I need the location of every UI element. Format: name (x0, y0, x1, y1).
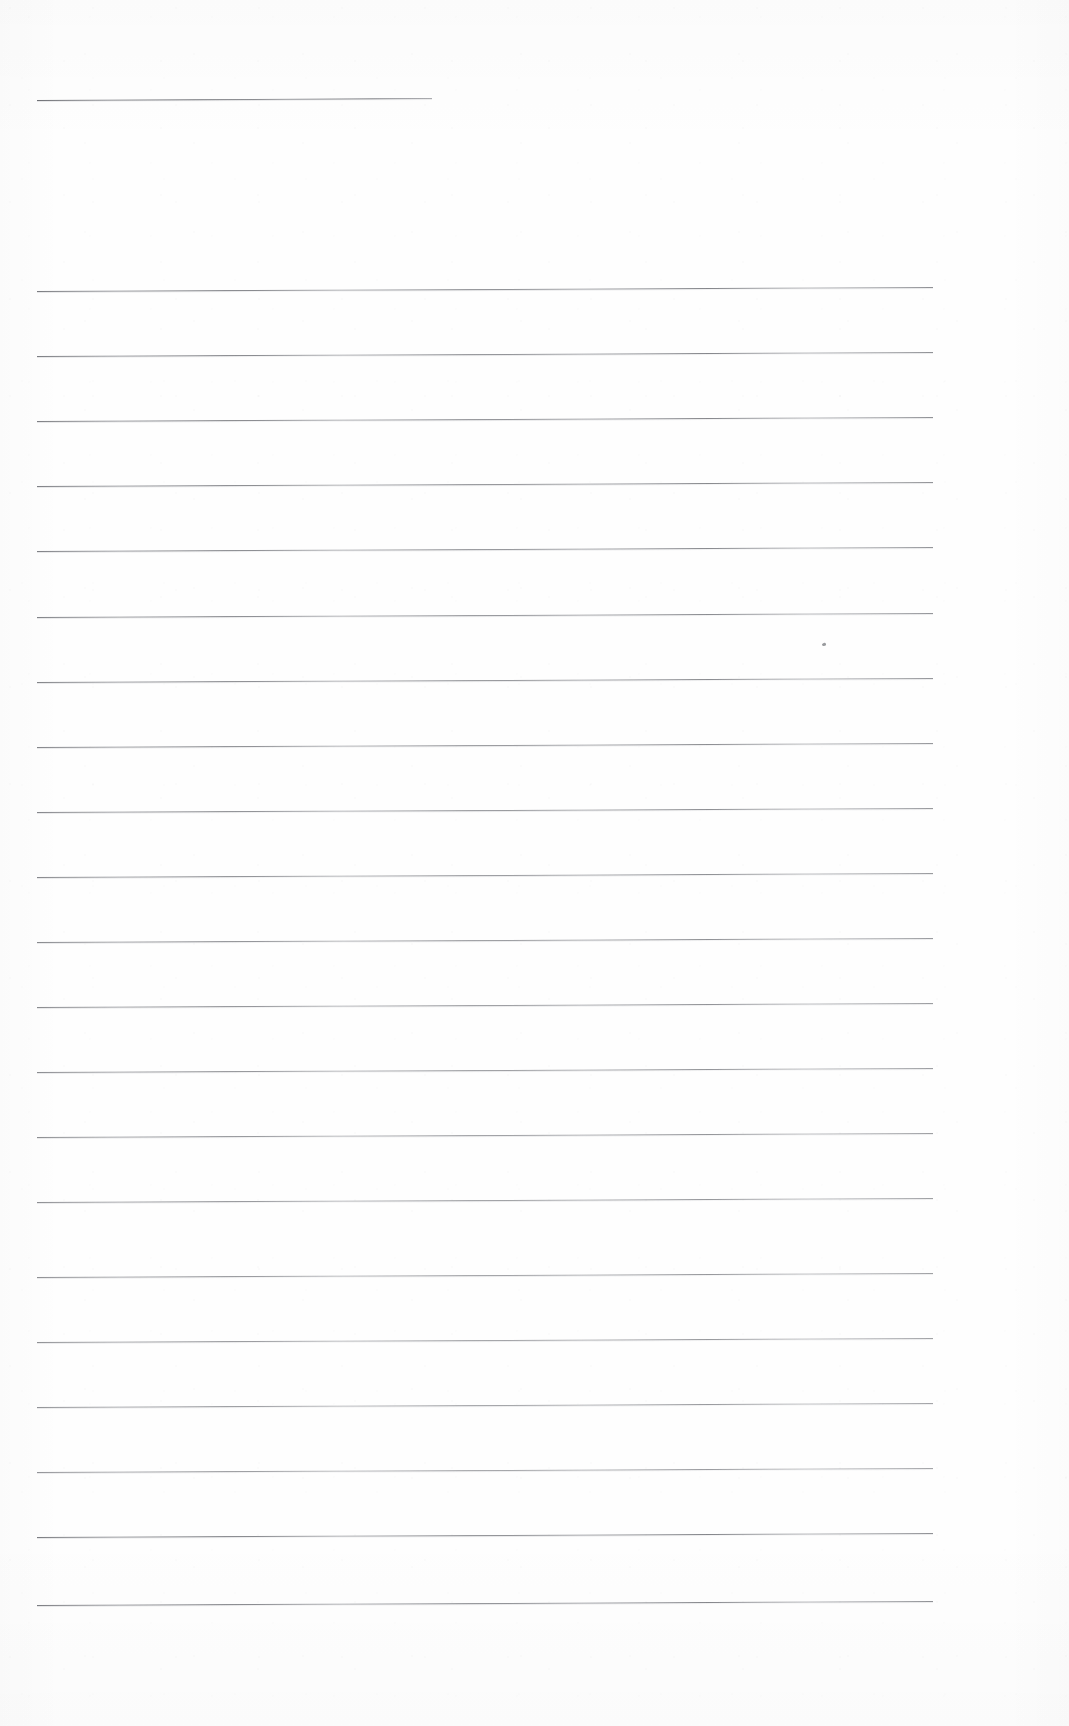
ruled-line-ink (37, 678, 933, 683)
ruled-line (37, 1273, 933, 1279)
header-rule (37, 98, 432, 102)
ruled-line-ink (37, 547, 933, 552)
header-rule-ink (37, 98, 432, 101)
ruled-line-ink (37, 1338, 933, 1343)
scan-shading (0, 0, 1069, 1726)
ruled-line (37, 352, 933, 358)
ruled-line (37, 873, 933, 879)
ink-speck (822, 642, 827, 646)
ruled-line-ink (37, 1533, 933, 1538)
ruled-line-ink (37, 417, 933, 422)
ruled-line (37, 287, 933, 293)
ruled-line-ink (37, 1601, 933, 1606)
ruled-line-ink (37, 1468, 933, 1473)
ruled-line-ink (37, 1273, 933, 1278)
ruled-line-ink (37, 1198, 933, 1203)
ruled-line-ink (37, 1003, 933, 1008)
ruled-line-ink (37, 352, 933, 357)
ruled-line (37, 417, 933, 423)
ruled-line-ink (37, 743, 933, 748)
ruled-line (37, 547, 933, 553)
ruled-line-ink (37, 808, 933, 813)
ruled-line (37, 613, 933, 619)
ruled-line-ink (37, 1068, 933, 1073)
ruled-line-ink (37, 287, 933, 292)
ruled-line (37, 1601, 933, 1607)
ruled-line-ink (37, 938, 933, 943)
ruled-line-ink (37, 482, 933, 487)
ruled-line-ink (37, 1403, 933, 1408)
ruled-line (37, 1003, 933, 1009)
ruled-line (37, 678, 933, 684)
ruled-line (37, 1068, 933, 1074)
ruled-line (37, 482, 933, 488)
ruled-line (37, 1468, 933, 1474)
ruled-line (37, 1403, 933, 1409)
ruled-line (37, 808, 933, 814)
paper-texture (0, 0, 1069, 1726)
ruled-line (37, 1533, 933, 1539)
ruled-line-ink (37, 1133, 933, 1138)
ruled-line-ink (37, 873, 933, 878)
ruled-line (37, 743, 933, 749)
ruled-line (37, 1133, 933, 1139)
scanned-page (0, 0, 1069, 1726)
ruled-line (37, 938, 933, 944)
ruled-line-ink (37, 613, 933, 618)
ruled-line (37, 1198, 933, 1204)
ruled-line (37, 1338, 933, 1344)
